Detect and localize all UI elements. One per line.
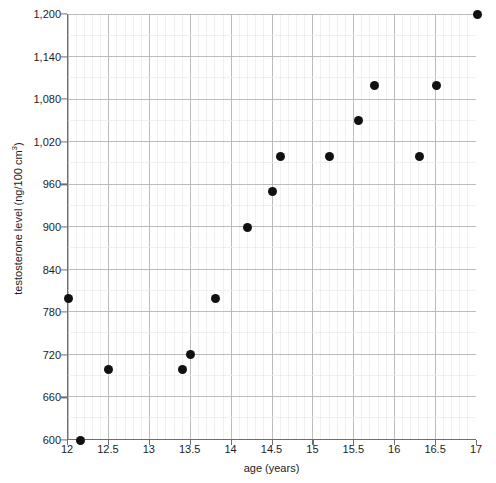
data-point	[76, 436, 85, 445]
data-point	[178, 365, 187, 374]
y-axis-title-superscript: 3	[10, 146, 19, 150]
data-point	[325, 152, 334, 161]
data-point	[354, 116, 363, 125]
y-tick-label: 1,200	[33, 9, 61, 20]
x-tick-mark	[394, 440, 395, 445]
y-tick-label: 900	[43, 222, 61, 233]
data-point	[186, 350, 195, 359]
x-tick-label: 12	[61, 444, 73, 455]
y-tick-label: 960	[43, 179, 61, 190]
x-tick-mark	[108, 440, 109, 445]
y-axis-title: testosterone level (ng/100 cm3)	[12, 119, 25, 319]
x-tick-label: 13	[143, 444, 155, 455]
x-tick-label: 15.5	[343, 444, 364, 455]
x-tick-mark	[272, 440, 273, 445]
y-tick-label: 1,080	[33, 94, 61, 105]
y-axis-title-text: testosterone level (ng/100 cm	[12, 150, 24, 294]
data-point	[415, 152, 424, 161]
clipped-header-remnant	[0, 0, 496, 4]
x-tick-mark	[435, 440, 436, 445]
data-point	[64, 294, 73, 303]
data-point	[432, 81, 441, 90]
data-point	[473, 10, 482, 19]
x-tick-label: 12.5	[97, 444, 118, 455]
plot-area	[67, 14, 476, 440]
data-point	[370, 81, 379, 90]
x-tick-label: 15	[306, 444, 318, 455]
scatter-chart: 6006607207808409009601,0201,0801,1401,20…	[0, 0, 496, 483]
y-tick-label: 1,020	[33, 136, 61, 147]
y-axis-title-tail: )	[12, 142, 24, 146]
y-axis-tick-labels: 6006607207808409009601,0201,0801,1401,20…	[0, 0, 61, 483]
y-tick-label: 1,140	[33, 51, 61, 62]
y-tick-label: 780	[43, 307, 61, 318]
data-point	[211, 294, 220, 303]
data-points-layer	[68, 14, 476, 439]
x-axis-title: age (years)	[67, 462, 476, 474]
x-tick-mark	[67, 440, 68, 445]
data-point	[268, 187, 277, 196]
x-tick-label: 14	[224, 444, 236, 455]
x-tick-label: 14.5	[261, 444, 282, 455]
y-tick-label: 600	[43, 435, 61, 446]
x-tick-label: 16	[388, 444, 400, 455]
x-tick-mark	[476, 440, 477, 445]
data-point	[243, 223, 252, 232]
y-tick-label: 720	[43, 349, 61, 360]
x-tick-label: 13.5	[179, 444, 200, 455]
data-point	[276, 152, 285, 161]
x-tick-mark	[231, 440, 232, 445]
data-point	[104, 365, 113, 374]
x-tick-mark	[353, 440, 354, 445]
x-tick-label: 16.5	[424, 444, 445, 455]
y-tick-label: 840	[43, 264, 61, 275]
x-tick-mark	[190, 440, 191, 445]
x-tick-mark	[312, 440, 313, 445]
x-tick-mark	[149, 440, 150, 445]
x-tick-label: 17	[470, 444, 482, 455]
y-tick-label: 660	[43, 392, 61, 403]
